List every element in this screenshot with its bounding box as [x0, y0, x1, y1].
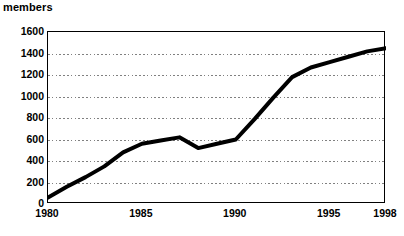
- gridlines: [48, 54, 386, 183]
- y-tick-label: 200: [2, 177, 44, 187]
- y-tick-label: 1000: [2, 91, 44, 101]
- x-tick-label: 1990: [223, 207, 246, 219]
- x-tick-label: 1985: [129, 207, 152, 219]
- plot-svg: [48, 32, 386, 204]
- x-axis-tick-labels: 19801985199019951998: [0, 207, 404, 225]
- y-tick-label: 1200: [2, 69, 44, 79]
- y-tick-label: 600: [2, 134, 44, 144]
- plot-area: [47, 31, 385, 203]
- y-axis-tick-labels: 02004006008001000120014001600: [0, 0, 44, 236]
- x-tick-label: 1980: [35, 207, 58, 219]
- y-tick-label: 1400: [2, 48, 44, 58]
- y-tick-label: 400: [2, 155, 44, 165]
- y-tick-label: 800: [2, 112, 44, 122]
- data-series-members: [48, 48, 386, 197]
- chart-container: members 02004006008001000120014001600 19…: [0, 0, 404, 236]
- y-tick-label: 1600: [2, 26, 44, 36]
- series-line: [48, 48, 386, 197]
- x-tick-label: 1998: [373, 207, 396, 219]
- x-tick-label: 1995: [317, 207, 340, 219]
